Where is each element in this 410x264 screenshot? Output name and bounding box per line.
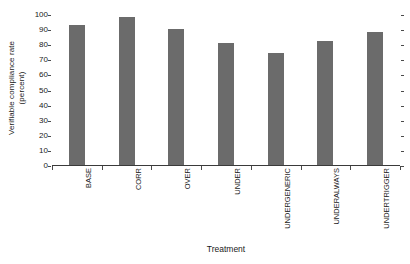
y-axis-tick-label: 100 [22,11,48,19]
y-axis-tick-label: 60 [22,71,48,79]
x-axis-tick-label: UNDERTRIGGER [381,168,393,236]
y-axis-tick-label: 0 [22,162,48,170]
y-axis-tick-label: 10 [22,147,48,155]
plot-area [52,15,400,166]
y-axis-tick-mark-right [401,121,404,122]
y-axis-title-line1: Verifiable compliance rate [7,40,16,134]
x-axis-title: Treatment [52,244,400,254]
y-axis-tick-mark-right [401,166,404,167]
y-axis-tick-mark-right [401,151,404,152]
x-axis-tick-mark [400,166,401,170]
bar [317,41,333,165]
x-axis-tick-label: UNDERALWAYS [331,168,343,236]
y-axis-tick-label: 20 [22,132,48,140]
y-axis-tick-mark [48,15,51,16]
x-axis-tick-label: BASE [83,168,95,236]
y-axis-tick-mark-right [401,75,404,76]
y-axis-tick-labels: 0102030405060708090100 [22,0,48,175]
bar [119,17,135,165]
y-axis-tick-mark [48,136,51,137]
bar [367,32,383,165]
x-axis-tick-labels: BASECORROVERUNDERUNDERGENERICUNDERALWAYS… [52,168,400,236]
y-axis-tick-mark [48,106,51,107]
x-axis-tick-label: OVER [182,168,194,236]
x-axis-tick-label: UNDERGENERIC [282,168,294,236]
y-axis-tick-label: 80 [22,41,48,49]
bar [69,25,85,165]
x-axis-tick-label: CORR [133,168,145,236]
y-axis-tick-label: 30 [22,117,48,125]
bar [168,29,184,165]
y-axis-tick-mark [48,45,51,46]
y-axis-tick-mark [48,166,51,167]
y-axis-tick-mark-right [401,91,404,92]
bar-chart-figure: Verifiable compliance rate (percent) 010… [0,0,410,264]
y-axis-tick-mark [48,121,51,122]
y-axis-tick-mark [48,151,51,152]
y-axis-tick-mark [48,30,51,31]
y-axis-tick-mark-right [401,15,404,16]
y-axis-tick-label: 90 [22,26,48,34]
y-axis-tick-mark [48,91,51,92]
y-axis-tick-label: 40 [22,102,48,110]
bar-series [52,15,400,166]
y-axis-tick-mark [48,75,51,76]
y-axis-tick-mark-right [401,106,404,107]
y-axis-tick-mark [48,60,51,61]
y-axis-tick-label: 50 [22,87,48,95]
y-axis-tick-mark-right [401,45,404,46]
y-axis-tick-mark-right [401,136,404,137]
bar [268,53,284,165]
y-axis-tick-mark-right [401,30,404,31]
y-axis-tick-label: 70 [22,56,48,64]
y-axis-tick-mark-right [401,60,404,61]
bar [218,43,234,165]
x-axis-tick-label: UNDER [232,168,244,236]
